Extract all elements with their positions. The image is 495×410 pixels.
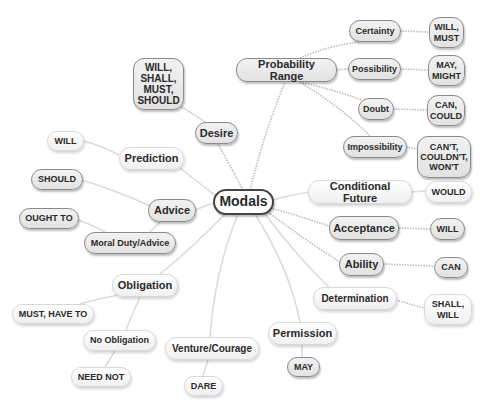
node-venture-words[interactable]: DARE	[184, 376, 223, 396]
mind-map: Modals Desire WILL, SHALL, MUST, SHOULD …	[0, 0, 495, 410]
node-desire[interactable]: Desire	[195, 122, 238, 144]
node-desire-words[interactable]: WILL, SHALL, MUST, SHOULD	[133, 58, 184, 110]
node-ability-words[interactable]: CAN	[434, 257, 468, 278]
node-ability[interactable]: Ability	[339, 253, 384, 276]
node-conditional-future[interactable]: Conditional Future	[308, 180, 412, 204]
node-possibility[interactable]: Possibility	[348, 58, 401, 80]
node-determination[interactable]: Determination	[313, 287, 397, 310]
node-impossibility[interactable]: Impossibility	[343, 136, 407, 158]
node-no-obligation-words[interactable]: NEED NOT	[71, 367, 131, 387]
node-obligation-words[interactable]: MUST, HAVE TO	[12, 304, 94, 324]
node-advice[interactable]: Advice	[148, 199, 196, 222]
node-certainty-words[interactable]: WILL, MUST	[429, 17, 464, 48]
node-acceptance[interactable]: Acceptance	[329, 216, 399, 240]
node-moral-duty-words[interactable]: OUGHT TO	[19, 208, 79, 229]
node-impossibility-words[interactable]: CAN'T, COULDN'T, WON'T	[417, 136, 471, 178]
node-permission-words[interactable]: MAY	[287, 357, 320, 377]
node-acceptance-words[interactable]: WILL	[430, 218, 465, 240]
node-prediction-words[interactable]: WILL	[47, 131, 84, 151]
node-prediction[interactable]: Prediction	[119, 147, 184, 170]
node-certainty[interactable]: Certainty	[349, 20, 401, 42]
node-doubt[interactable]: Doubt	[358, 98, 394, 120]
node-advice-words[interactable]: SHOULD	[31, 169, 83, 190]
node-moral-duty-advice[interactable]: Moral Duty/Advice	[84, 232, 176, 254]
node-conditional-future-words[interactable]: WOULD	[425, 181, 472, 203]
node-determination-words[interactable]: SHALL, WILL	[424, 294, 472, 325]
node-probability-range[interactable]: Probability Range	[236, 58, 337, 82]
central-topic-modals[interactable]: Modals	[213, 189, 274, 215]
node-doubt-words[interactable]: CAN, COULD	[427, 95, 465, 126]
node-permission[interactable]: Permission	[268, 322, 337, 345]
node-no-obligation[interactable]: No Obligation	[83, 330, 156, 351]
node-obligation[interactable]: Obligation	[112, 274, 178, 297]
node-possibility-words[interactable]: MAY, MIGHT	[428, 55, 465, 86]
node-venture-courage[interactable]: Venture/Courage	[165, 337, 259, 360]
